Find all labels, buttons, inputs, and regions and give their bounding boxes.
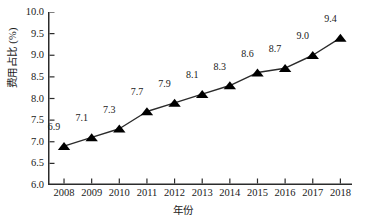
data-point-label: 8.6 (232, 49, 262, 59)
y-axis-tick-label: 9.0 (18, 50, 44, 61)
y-axis-tick-label: 8.5 (18, 72, 44, 83)
data-point-label: 7.3 (94, 105, 124, 115)
y-axis-tick-label: 7.0 (18, 137, 44, 148)
data-point-marker (168, 99, 180, 107)
data-point-marker (58, 142, 70, 150)
data-point-label: 8.7 (260, 44, 290, 54)
data-point-marker (334, 34, 346, 42)
y-axis-tick-labels: 6.06.57.07.58.08.59.09.510.0 (16, 0, 44, 223)
data-point-label: 8.3 (205, 62, 235, 72)
data-point-label: 7.9 (150, 79, 180, 89)
x-axis-tick-label: 2018 (319, 188, 361, 199)
y-axis-tick-label: 10.0 (18, 7, 44, 18)
data-point-label: 9.4 (315, 14, 345, 24)
x-axis-label: 年份 (0, 202, 366, 217)
data-point-label: 8.1 (177, 70, 207, 80)
y-axis-tick-label: 9.5 (18, 28, 44, 39)
x-axis-tick-labels: 2008200920102011201220132014201520162017… (48, 188, 352, 202)
data-point-marker (224, 81, 236, 89)
data-point-marker (141, 107, 153, 115)
y-axis-tick-label: 6.0 (18, 180, 44, 191)
y-axis-tick-label: 6.5 (18, 158, 44, 169)
data-point-label: 7.1 (67, 113, 97, 123)
data-point-marker (85, 133, 97, 141)
data-point-marker (279, 64, 291, 72)
data-point-marker (196, 90, 208, 98)
line-chart: 费用占比 (%) 6.06.57.07.58.08.59.09.510.0 6.… (0, 0, 366, 223)
data-point-label: 6.9 (39, 122, 69, 132)
y-axis-tick-label: 8.0 (18, 93, 44, 104)
plot-area: 6.97.17.37.77.98.18.38.68.79.09.4 (48, 12, 352, 185)
data-point-label: 7.7 (122, 87, 152, 97)
data-point-label: 9.0 (288, 31, 318, 41)
